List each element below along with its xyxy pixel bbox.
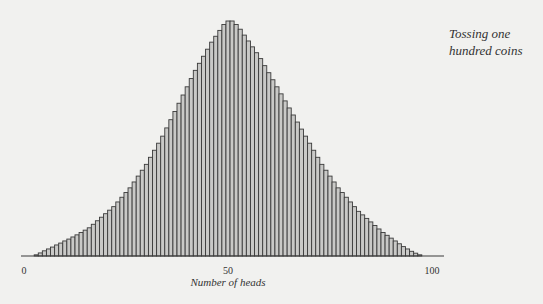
histogram-bar <box>87 228 91 256</box>
chart-caption: Tossing one hundred coins <box>449 25 543 59</box>
histogram-bar <box>116 202 120 256</box>
histogram-bar <box>222 25 226 256</box>
x-tick-50: 50 <box>223 265 233 276</box>
histogram-bar <box>148 157 152 256</box>
histogram-bar <box>177 103 181 256</box>
histogram-bar <box>136 176 140 256</box>
histogram-bar <box>320 164 324 256</box>
histogram-bar <box>275 87 279 256</box>
histogram-bar <box>340 193 344 256</box>
histogram-bar <box>283 101 287 256</box>
histogram-bar <box>46 249 50 256</box>
histogram-bar <box>365 218 369 256</box>
histogram-bar <box>357 211 361 256</box>
histogram-bar <box>381 233 385 257</box>
histogram-bar <box>332 182 336 256</box>
histogram-bar <box>71 237 75 256</box>
histogram-bar <box>99 217 103 256</box>
histogram-bar <box>132 182 136 256</box>
histogram-bar <box>246 41 250 256</box>
histogram-bar <box>153 150 157 256</box>
histogram-bar <box>238 29 242 256</box>
histogram-bar <box>124 193 128 256</box>
histogram-bar <box>128 188 132 256</box>
histogram-bar <box>234 25 238 256</box>
histogram-bar <box>79 233 83 257</box>
histogram-bar <box>361 215 365 256</box>
x-tick-100: 100 <box>425 265 440 276</box>
histogram-bar <box>75 235 79 256</box>
histogram-bar <box>397 244 401 256</box>
x-tick-0: 0 <box>22 265 27 276</box>
histogram-bar <box>267 73 271 256</box>
histogram-bar <box>230 21 234 256</box>
histogram-bar <box>295 122 299 256</box>
histogram-bar <box>328 176 332 256</box>
histogram-bar <box>108 210 112 256</box>
histogram-bar <box>214 36 218 256</box>
histogram-bar <box>67 239 71 256</box>
histogram-bar <box>165 128 169 256</box>
histogram-bar <box>104 214 108 256</box>
histogram-bar <box>226 21 230 256</box>
histogram-bar <box>352 207 356 256</box>
histogram-bar <box>401 247 405 256</box>
histogram-bar <box>55 245 59 256</box>
histogram-bar <box>316 157 320 256</box>
histogram-bar <box>185 87 189 256</box>
histogram-bar <box>303 136 307 256</box>
histogram-bar <box>389 238 393 256</box>
histogram-bar <box>373 225 377 256</box>
histogram-bar <box>197 63 201 256</box>
histogram-bar <box>369 222 373 256</box>
histogram-bar <box>51 247 55 256</box>
histogram-bar <box>308 143 312 256</box>
histogram-bar <box>250 47 254 256</box>
histogram-bar <box>218 30 222 256</box>
histogram-bar <box>242 35 246 256</box>
histogram-bar <box>410 251 414 256</box>
histogram-bar <box>206 49 210 256</box>
histogram-bar <box>42 251 46 256</box>
histogram-bar <box>173 111 177 256</box>
histogram-bar <box>59 243 63 256</box>
histogram-bar <box>348 202 352 256</box>
histogram-bar <box>63 241 67 256</box>
histogram-bar <box>324 170 328 256</box>
histogram-bar <box>189 79 193 256</box>
histogram-bar <box>140 170 144 256</box>
histogram-bar <box>161 136 165 256</box>
histogram-bar <box>271 80 275 256</box>
x-axis-label: Number of heads <box>190 276 265 288</box>
histogram-bar <box>299 129 303 256</box>
histogram-bar <box>312 150 316 256</box>
histogram-bar <box>83 230 87 256</box>
histogram-bar <box>210 42 214 256</box>
histogram-bar <box>291 115 295 256</box>
histogram-bar <box>193 70 197 256</box>
histogram-bar <box>157 143 161 256</box>
histogram-bar <box>279 94 283 256</box>
histogram-bar <box>181 95 185 256</box>
histogram-bar <box>263 66 267 256</box>
histogram-bar <box>405 249 409 256</box>
histogram-bar <box>112 207 116 256</box>
histogram-bar <box>259 59 263 256</box>
histogram-bar <box>287 108 291 256</box>
histogram-bar <box>169 120 173 256</box>
histogram-bar <box>144 164 148 256</box>
histogram-bar <box>393 241 397 256</box>
histogram-bar <box>120 197 124 256</box>
histogram-bar <box>336 188 340 256</box>
histogram-bar <box>95 221 99 256</box>
histogram-bar <box>377 229 381 256</box>
histogram-bar <box>201 56 205 256</box>
histogram-bar <box>344 197 348 256</box>
histogram-bar <box>385 235 389 256</box>
histogram-bars <box>34 21 422 256</box>
histogram-bar <box>255 53 259 256</box>
histogram-bar <box>91 224 95 256</box>
